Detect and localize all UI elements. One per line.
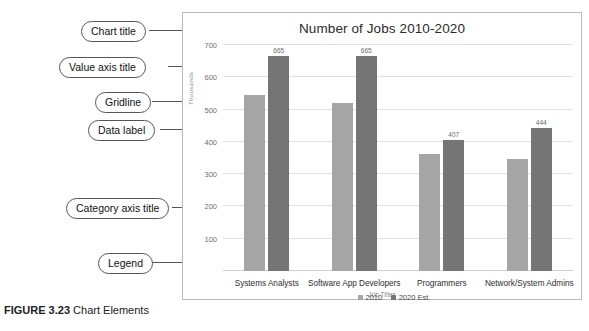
figure-caption: FIGURE 3.23 Chart Elements [4, 304, 149, 316]
value-axis-tick-label: 500 [191, 105, 217, 114]
value-axis-tick-label: 600 [191, 73, 217, 82]
category-axis-tick-label: Network/System Admins [485, 279, 574, 288]
annotation-data-label: Data label [88, 120, 155, 141]
legend-swatch-icon [358, 295, 363, 300]
annotation-label: Category axis title [76, 202, 159, 214]
value-axis-tick-label: 700 [191, 41, 217, 50]
chart-legend: 20102020 Est. [358, 293, 430, 302]
legend-item[interactable]: 2010 [358, 293, 382, 302]
annotation-label: Chart title [91, 25, 136, 37]
data-label: 407 [448, 131, 459, 138]
annotation-legend: Legend [98, 253, 153, 274]
gridline [223, 44, 573, 45]
bar-2020-est-[interactable] [268, 56, 289, 271]
data-label: 444 [536, 119, 547, 126]
figure-number: FIGURE 3.23 [4, 304, 70, 316]
value-axis-tick-label: 200 [191, 202, 217, 211]
legend-item[interactable]: 2020 Est. [391, 293, 430, 302]
chart-title: Number of Jobs 2010-2020 [183, 21, 581, 36]
category-axis-tick-label: Software App Developers [308, 279, 400, 288]
chart-container: Number of Jobs 2010-2020 Thousands 66566… [182, 12, 582, 300]
category-axis-tick-label: Programmers [417, 279, 467, 288]
value-axis-tick-label: 300 [191, 170, 217, 179]
value-axis-tick-label: 100 [191, 234, 217, 243]
bar-2020-est-[interactable] [531, 128, 552, 271]
bar-2010[interactable] [507, 159, 528, 271]
annotation-label: Data label [98, 124, 145, 136]
value-axis-tick-label: 400 [191, 137, 217, 146]
bar-2010[interactable] [244, 95, 265, 271]
annotation-value-axis-title: Value axis title [59, 57, 146, 78]
annotation-category-axis-title: Category axis title [66, 198, 169, 219]
legend-label: 2010 [366, 293, 383, 302]
annotation-label: Value axis title [69, 61, 136, 73]
bar-2010[interactable] [332, 103, 353, 271]
bar-2020-est-[interactable] [443, 140, 464, 271]
annotation-chart-title: Chart title [81, 21, 146, 42]
annotation-label: Legend [108, 257, 143, 269]
annotation-label: Gridline [105, 96, 141, 108]
data-label: 665 [273, 47, 284, 54]
data-label: 665 [361, 47, 372, 54]
bar-2020-est-[interactable] [356, 56, 377, 271]
figure-caption-text: Chart Elements [73, 304, 149, 316]
legend-swatch-icon [391, 295, 396, 300]
category-axis-tick-label: Systems Analysts [235, 279, 299, 288]
bar-2010[interactable] [419, 154, 440, 271]
annotation-gridline: Gridline [95, 92, 151, 113]
legend-label: 2020 Est. [399, 293, 431, 302]
plot-area: 665665407444 [223, 45, 573, 271]
